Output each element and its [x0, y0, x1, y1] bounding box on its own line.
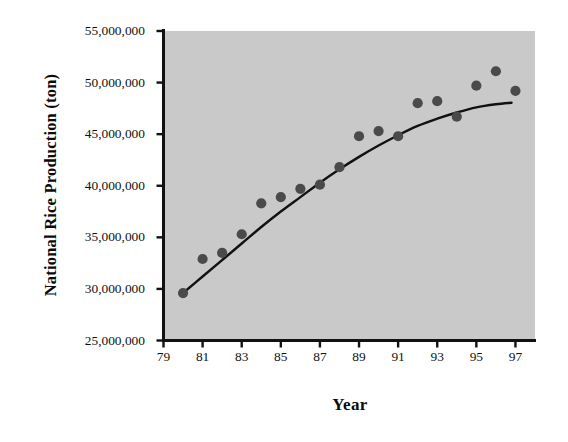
x-tick-label: 87	[305, 350, 335, 363]
x-tick-label: 79	[149, 350, 179, 363]
x-axis-tick-labels: 79818385878991939597	[0, 0, 568, 442]
x-tick-label: 91	[383, 350, 413, 363]
x-tick-label: 85	[266, 350, 296, 363]
x-tick-label: 93	[422, 350, 452, 363]
x-tick-label: 83	[227, 350, 257, 363]
x-tick-label: 95	[461, 350, 491, 363]
x-tick-label: 97	[500, 350, 530, 363]
x-tick-label: 81	[188, 350, 218, 363]
x-tick-label: 89	[344, 350, 374, 363]
rice-production-chart: National Rice Production (ton) 25,000,00…	[0, 0, 568, 442]
x-axis-title: Year	[160, 395, 540, 415]
